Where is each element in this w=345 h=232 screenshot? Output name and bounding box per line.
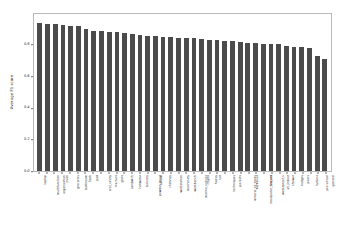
bar	[222, 41, 227, 171]
x-tick-mark	[46, 172, 47, 174]
y-tick: 0.2	[24, 138, 33, 142]
bar	[37, 23, 42, 171]
chart-figure: Average F1 score 0.00.20.40.60.8 laptopm…	[0, 0, 345, 232]
x-tick-mark	[287, 172, 288, 174]
bar	[245, 43, 250, 171]
x-tick-mark	[256, 172, 257, 174]
bar-slot	[128, 14, 136, 171]
x-tick: oral_cavity	[97, 172, 105, 230]
x-tick-mark	[124, 172, 125, 174]
bar	[68, 26, 73, 171]
bar-slot	[152, 14, 160, 171]
bar	[161, 37, 166, 171]
bar	[207, 40, 212, 171]
y-tick: 0.8	[24, 43, 33, 47]
x-tick-mark	[326, 172, 327, 174]
x-tick: packets	[229, 172, 237, 230]
bar-slot	[90, 14, 98, 171]
bar-slot	[244, 14, 252, 171]
bar	[284, 46, 289, 171]
x-tick: general	[322, 172, 330, 230]
bar-slot	[75, 14, 83, 171]
y-tick: 0.0	[24, 170, 33, 174]
x-tick: oven	[58, 172, 66, 230]
bar	[307, 48, 312, 171]
bar	[84, 29, 89, 171]
x-tick: bathroom	[74, 172, 82, 230]
x-tick: multifunction	[43, 172, 51, 230]
bar	[130, 34, 135, 171]
x-axis-ticks: laptopmultifunctionorganizationovengroce…	[33, 172, 332, 230]
x-tick-mark	[233, 172, 234, 174]
bar	[215, 40, 220, 171]
bar	[168, 37, 173, 171]
x-tick: barbecue	[245, 172, 253, 230]
x-tick-mark	[85, 172, 86, 174]
x-tick-label: general	[332, 175, 335, 186]
x-tick: hotwater	[128, 172, 136, 230]
bar-slot	[259, 14, 267, 171]
x-tick: glare	[113, 172, 121, 230]
y-axis-ticks: 0.00.20.40.60.8	[0, 13, 33, 172]
bar	[153, 36, 158, 171]
bar	[238, 42, 243, 171]
bar-slot	[198, 14, 206, 171]
x-tick: balcony	[136, 172, 144, 230]
bar-slot	[221, 14, 229, 171]
x-tick-mark	[69, 172, 70, 174]
x-tick: hedges	[291, 172, 299, 230]
bar-slot	[321, 14, 329, 171]
x-tick-mark	[93, 172, 94, 174]
bar	[192, 38, 197, 171]
x-tick-mark	[209, 172, 210, 174]
y-tick-label: 0.4	[24, 107, 29, 111]
x-tick-mark	[116, 172, 117, 174]
bar-slot	[298, 14, 306, 171]
x-tick-mark	[248, 172, 249, 174]
bar-slot	[159, 14, 167, 171]
bar-slot	[275, 14, 283, 171]
x-tick-mark	[225, 172, 226, 174]
x-tick: powder_sheet	[144, 172, 152, 230]
x-tick-mark	[62, 172, 63, 174]
bar-slot	[51, 14, 59, 171]
bar	[269, 44, 274, 171]
x-tick: pad	[89, 172, 97, 230]
bar-slot	[136, 14, 144, 171]
x-tick-mark	[170, 172, 171, 174]
x-tick-mark	[279, 172, 280, 174]
bar	[199, 39, 204, 171]
x-tick: sandwich	[120, 172, 128, 230]
x-tick-mark	[194, 172, 195, 174]
bar	[122, 33, 127, 171]
x-tick: techniques	[221, 172, 229, 230]
x-tick-mark	[147, 172, 148, 174]
bar-slot	[98, 14, 106, 171]
x-tick-mark	[271, 172, 272, 174]
x-tick: vat	[214, 172, 222, 230]
bar	[61, 25, 66, 171]
bar-slot	[182, 14, 190, 171]
x-tick: groceries	[66, 172, 74, 230]
bar-slot	[44, 14, 52, 171]
bar	[261, 44, 266, 171]
y-tick: 0.6	[24, 75, 33, 79]
bar	[107, 32, 112, 171]
x-tick: all_indoor	[276, 172, 284, 230]
x-tick: helium	[151, 172, 159, 230]
x-tick-mark	[318, 172, 319, 174]
bar	[322, 59, 327, 171]
x-tick: fracture	[105, 172, 113, 230]
bar	[99, 31, 104, 171]
bar-slot	[113, 14, 121, 171]
bar-slot	[67, 14, 75, 171]
x-tick-mark	[186, 172, 187, 174]
x-tick-mark	[101, 172, 102, 174]
bar	[253, 43, 258, 171]
y-tick-label: 0.6	[24, 75, 29, 79]
x-tick: mineral_oil_tanks	[237, 172, 245, 230]
bar-slot	[144, 14, 152, 171]
bar-slot	[313, 14, 321, 171]
x-tick-mark	[295, 172, 296, 174]
x-tick-mark	[264, 172, 265, 174]
